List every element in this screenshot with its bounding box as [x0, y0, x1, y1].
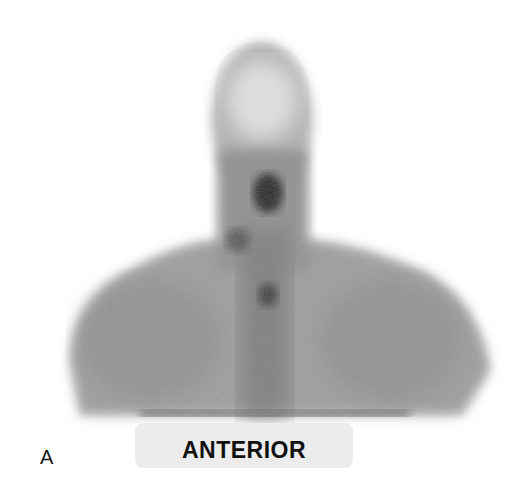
view-label-box: ANTERIOR	[135, 423, 353, 468]
panel-letter: A	[40, 446, 53, 469]
view-label: ANTERIOR	[182, 427, 306, 464]
